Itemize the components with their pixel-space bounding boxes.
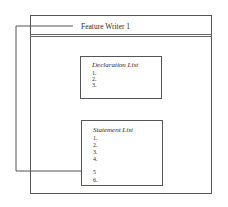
statement-item-highlighted: 5 [93,169,96,175]
declaration-item: 3. [92,82,97,88]
declaration-list-box: Declaration List 1. 2. 3. [80,56,162,99]
statement-list-title: Statement List [93,126,133,134]
statement-item: 1. [93,135,98,141]
statement-item: 2. [93,142,98,148]
window-title: Feature Writer 1 [80,22,131,31]
declaration-list-title: Declaration List [92,61,138,69]
statement-item: 3. [93,149,98,155]
statement-item: 6. [93,177,98,183]
statement-item: 4. [93,156,98,162]
statement-list-box: Statement List 1. 2. 3. 4. 5 6. [81,120,163,186]
